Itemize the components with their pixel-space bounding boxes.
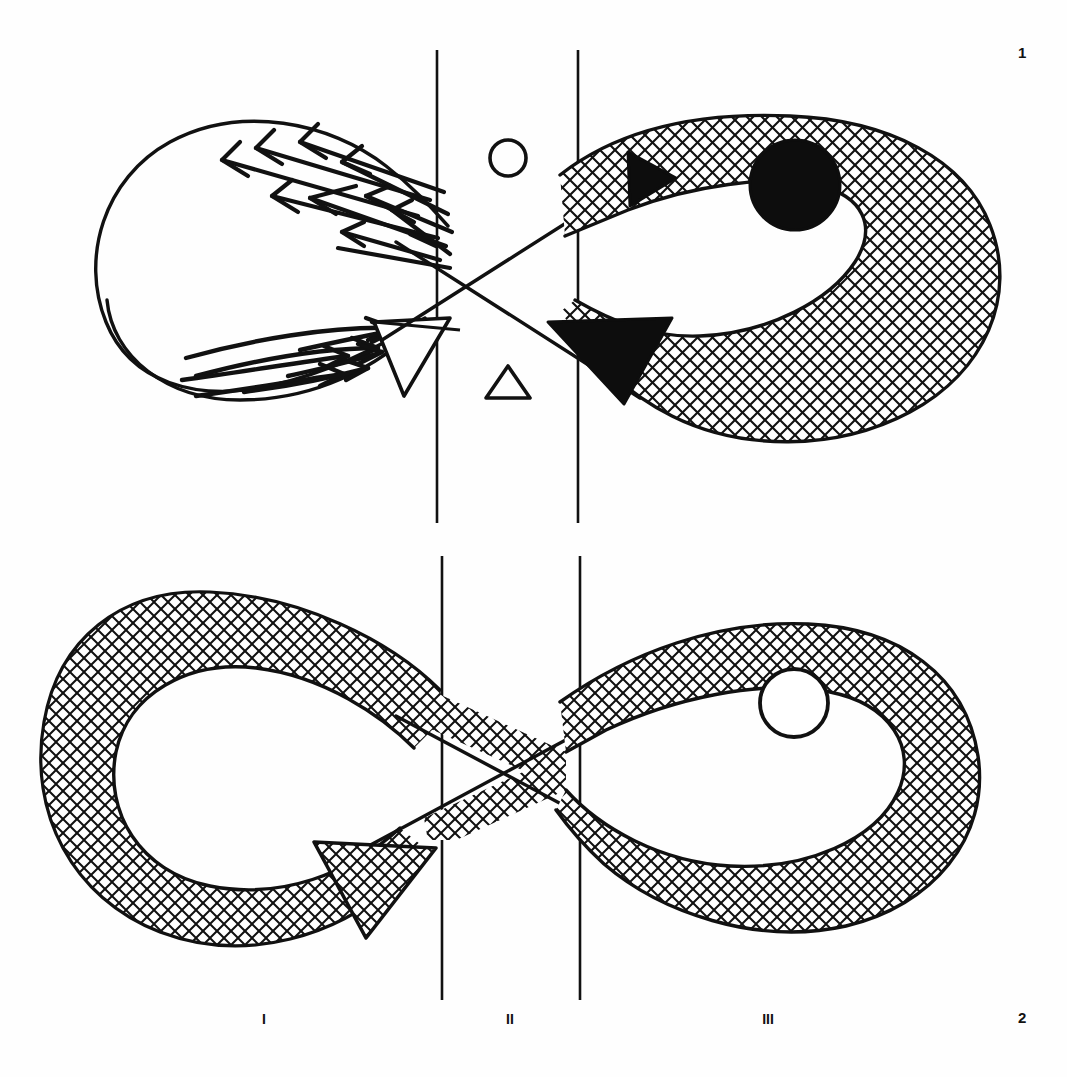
figure-root: 1 2 I II III [0,0,1067,1077]
panel-1-lower-arrow-swarm [182,318,396,396]
panel-2-hollow-core [760,669,828,737]
panel-1-solid-core [750,140,840,230]
zone-label-i: I [244,1011,284,1027]
panel-1-upper-arrow-swarm [222,124,452,268]
panel-1 [96,50,1040,523]
zone-label-ii: II [490,1011,530,1027]
panel-2-left-loop [20,575,470,955]
panel-2 [20,556,1010,1000]
panel-2-number: 2 [1018,1009,1026,1026]
circle-symbol [490,140,526,176]
panel-2-right-loop [540,600,1010,950]
triangle-symbol [486,366,530,398]
panel-1-hollow-arrowhead [374,318,460,396]
panel-1-number: 1 [1018,44,1026,61]
zone-label-iii: III [748,1011,788,1027]
figure-canvas [0,0,1067,1077]
